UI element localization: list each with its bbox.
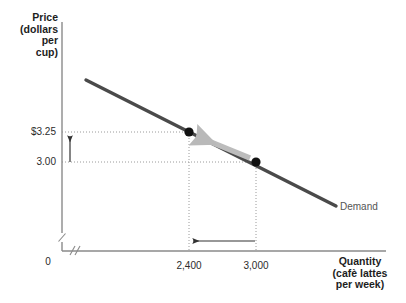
point-a-marker <box>184 127 193 136</box>
y-tick-label-300: 3.00 <box>14 156 56 167</box>
y-tick-label-325: $3.25 <box>14 126 56 137</box>
y-axis-title: Price (dollars per cup) <box>2 12 58 58</box>
y-axis-break-slash-1 <box>59 234 66 242</box>
point-b-marker <box>251 157 260 166</box>
x-tick-label-3000: 3,000 <box>231 260 281 271</box>
x-tick-label-2400: 2,400 <box>164 260 214 271</box>
x-axis-title: Quantity (cafè lattes per week) <box>316 256 404 291</box>
movement-along-curve-arrow <box>196 136 250 158</box>
origin-label: 0 <box>40 256 56 268</box>
demand-curve-figure: Price (dollars per cup) Quantity (cafè l… <box>0 0 406 303</box>
axis-lines <box>59 22 387 255</box>
demand-curve-label: Demand <box>340 201 378 213</box>
